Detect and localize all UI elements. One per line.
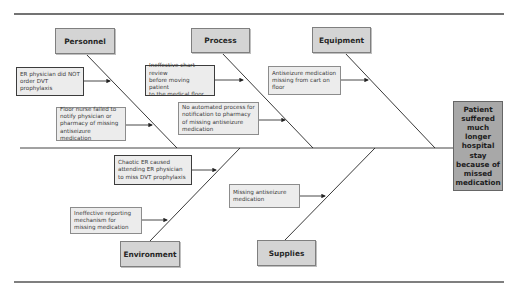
- cause-text: Antiseizure medication missing from cart…: [272, 70, 336, 92]
- category-supplies: Supplies: [257, 240, 316, 266]
- cause-text: Missing antiseizure medication: [233, 189, 286, 204]
- category-label: Supplies: [269, 249, 305, 258]
- cause-text: ER physician did NOT order DVT prophylax…: [20, 71, 80, 93]
- effect-text: Patient suffered much longer hospital st…: [455, 105, 500, 188]
- category-label: Equipment: [319, 36, 364, 45]
- cause-environment-2: Ineffective reporting mechanism for miss…: [70, 207, 142, 234]
- cause-equipment-1: Antiseizure medication missing from cart…: [268, 66, 341, 95]
- category-environment: Environment: [120, 241, 180, 267]
- category-personnel: Personnel: [55, 28, 115, 54]
- fishbone-diagram: Personnel Process Equipment Environment …: [0, 0, 519, 284]
- bone-equipment: [345, 53, 435, 148]
- cause-personnel-1: ER physician did NOT order DVT prophylax…: [16, 67, 84, 96]
- category-process: Process: [191, 28, 250, 53]
- effect-box: Patient suffered much longer hospital st…: [453, 101, 503, 191]
- cause-process-2: No automated process for notification to…: [178, 102, 259, 135]
- category-equipment: Equipment: [312, 27, 371, 53]
- cause-text: Ineffective chart review before moving p…: [149, 62, 211, 98]
- cause-supplies-1: Missing antiseizure medication: [229, 184, 300, 208]
- cause-text: Chaotic ER caused attending ER physician…: [118, 159, 186, 181]
- category-label: Personnel: [64, 37, 106, 46]
- cause-environment-1: Chaotic ER caused attending ER physician…: [114, 155, 192, 185]
- category-label: Process: [204, 36, 236, 45]
- cause-text: Floor nurse failed to notify physician o…: [60, 106, 122, 142]
- cause-text: No automated process for notification to…: [182, 104, 255, 133]
- category-label: Environment: [123, 250, 176, 259]
- cause-text: Ineffective reporting mechanism for miss…: [74, 210, 131, 232]
- cause-process-1: Ineffective chart review before moving p…: [145, 65, 215, 96]
- cause-personnel-2: Floor nurse failed to notify physician o…: [56, 107, 126, 141]
